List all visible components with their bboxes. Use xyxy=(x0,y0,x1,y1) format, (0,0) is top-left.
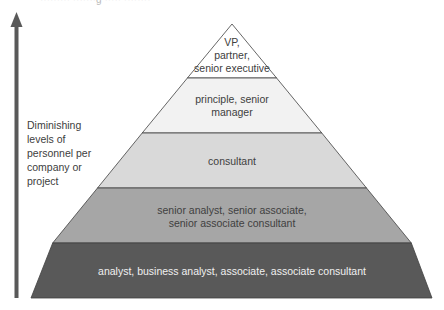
axis-label-line: company or xyxy=(27,160,117,174)
axis-label: Diminishing levels of personnel per comp… xyxy=(27,118,117,188)
level-5-line: analyst, business analyst, associate, as… xyxy=(62,265,402,278)
axis-label-line: personnel per xyxy=(27,146,117,160)
up-arrow-icon xyxy=(11,12,23,298)
level-4-line: senior analyst, senior associate, xyxy=(112,204,352,217)
level-1-line: VP, xyxy=(182,36,282,49)
axis-label-line: project xyxy=(27,174,117,188)
level-1-line: senior executive xyxy=(182,62,282,75)
level-3-line: consultant xyxy=(142,155,322,168)
axis-label-line: Diminishing xyxy=(27,118,117,132)
level-3-label: consultant xyxy=(142,155,322,168)
level-2-line: principle, senior xyxy=(162,93,302,106)
level-2-line: manager xyxy=(162,106,302,119)
level-4-label: senior analyst, senior associate, senior… xyxy=(112,204,352,230)
cut-off-caption: ········· ·······g ····· ········ xyxy=(40,0,150,5)
level-1-line: partner, xyxy=(182,49,282,62)
level-1-label: VP, partner, senior executive xyxy=(182,36,282,75)
level-5-label: analyst, business analyst, associate, as… xyxy=(62,265,402,278)
axis-label-line: levels of xyxy=(27,132,117,146)
level-4-line: senior associate consultant xyxy=(112,217,352,230)
level-2-label: principle, senior manager xyxy=(162,93,302,119)
